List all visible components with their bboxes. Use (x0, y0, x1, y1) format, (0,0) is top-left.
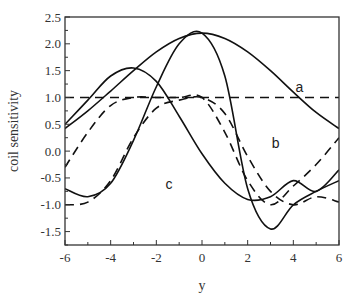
y-axis-title: coil sensitivity (6, 90, 21, 172)
coil-sensitivity-chart: -6-4-20246 -1.5-1.0-0.50.00.51.01.52.02.… (0, 0, 357, 307)
x-axis-ticks: -6-4-20246 (60, 240, 343, 265)
y-tick-label: 1.5 (45, 63, 61, 78)
y-tick-label: -1.5 (40, 224, 61, 239)
y-tick-label: -0.5 (40, 170, 61, 185)
x-tick-label: -4 (105, 250, 116, 265)
y-tick-label: 2.5 (45, 10, 61, 25)
y-tick-label: 1.0 (45, 90, 61, 105)
x-tick-label: 2 (244, 250, 251, 265)
y-tick-label: 0.5 (45, 117, 61, 132)
y-tick-label: 2.0 (45, 36, 61, 51)
y-tick-label: -1.0 (40, 197, 61, 212)
x-tick-label: 0 (199, 250, 206, 265)
x-tick-label: 6 (336, 250, 343, 265)
x-axis-title: y (199, 278, 206, 293)
plot-curves (65, 31, 339, 229)
x-tick-label: -6 (60, 250, 71, 265)
plot-border (65, 17, 339, 245)
curve-label-b: b (272, 135, 280, 151)
plot-frame (65, 17, 339, 245)
curve-label-c: c (165, 176, 172, 192)
x-tick-label: 4 (290, 250, 297, 265)
x-tick-label: -2 (151, 250, 162, 265)
y-tick-label: 0.0 (45, 144, 61, 159)
series-c-solid (65, 31, 339, 229)
curve-label-a: a (296, 79, 304, 95)
